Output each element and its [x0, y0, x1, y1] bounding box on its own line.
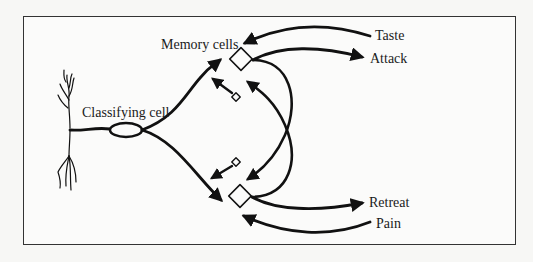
lower-inhibitor-icon	[232, 158, 240, 166]
attack-arrow	[253, 49, 362, 60]
axon	[70, 128, 110, 130]
lower-dendrites-icon	[58, 130, 76, 190]
attack-label: Attack	[370, 52, 407, 66]
pathway-to-bottom-memory	[142, 130, 221, 200]
upper-inhibitor-arrow	[213, 79, 232, 93]
neural-circuit-diagram	[0, 0, 533, 262]
memory-cells-label: Memory cells	[161, 38, 238, 52]
retreat-label: Retreat	[369, 196, 409, 210]
taste-label: Taste	[375, 29, 404, 43]
bottom-loop-to-upper-inhibitor	[248, 82, 292, 197]
lower-inhibitor-arrow	[212, 166, 232, 178]
top-loop-to-lower-inhibitor	[248, 60, 292, 179]
taste-arrow	[245, 27, 370, 43]
bottom-memory-cell-icon	[229, 185, 252, 208]
upper-dendrites-icon	[58, 70, 74, 128]
pain-label: Pain	[376, 217, 401, 231]
classifying-cell-label: Classifying cell	[82, 106, 170, 120]
classifying-cell-body-icon	[110, 123, 142, 137]
retreat-arrow	[252, 197, 362, 209]
pain-arrow	[244, 216, 370, 232]
upper-inhibitor-icon	[232, 93, 240, 101]
